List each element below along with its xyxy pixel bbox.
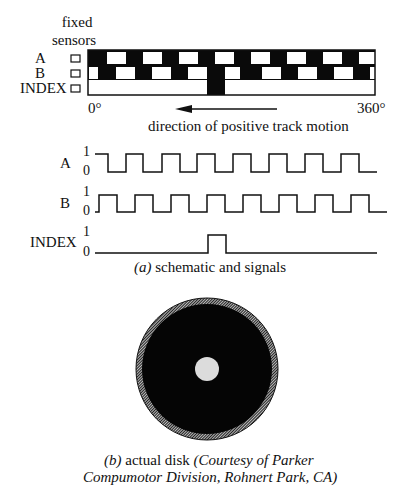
sensor-a-icon — [71, 55, 80, 62]
sensor-index-icon — [71, 85, 80, 92]
signal-b-waveform — [95, 195, 387, 212]
sensor-icons — [71, 55, 80, 92]
encoder-disk — [136, 298, 278, 440]
signal-index-waveform — [95, 235, 377, 253]
direction-arrow-icon — [175, 105, 277, 113]
encoder-track — [88, 50, 375, 95]
sensor-b-icon — [71, 70, 80, 77]
signal-a-waveform — [95, 154, 377, 172]
diagram-graphics — [0, 0, 406, 487]
